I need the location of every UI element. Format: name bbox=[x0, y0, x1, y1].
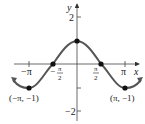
svg-text:π: π bbox=[58, 65, 62, 73]
svg-text:2: 2 bbox=[94, 74, 98, 82]
x-tick-pi-half: π 2 bbox=[93, 65, 99, 82]
point-label-left: (−π, −1) bbox=[9, 93, 39, 103]
x-tick-neg-pi-half: − π 2 bbox=[50, 65, 63, 82]
x-axis-label: x bbox=[133, 66, 139, 77]
cosine-graph: y x 2 −2 −π π − π 2 π 2 (−π, −1) (π, −1) bbox=[0, 0, 145, 124]
point-label-right: (π, −1) bbox=[110, 93, 135, 103]
svg-text:2: 2 bbox=[58, 74, 62, 82]
x-tick-pi: π bbox=[121, 66, 126, 77]
svg-text:−: − bbox=[50, 66, 55, 76]
y-tick-neg2: −2 bbox=[65, 106, 76, 117]
svg-text:π: π bbox=[94, 65, 98, 73]
x-tick-neg-pi: −π bbox=[21, 66, 32, 77]
y-tick-2: 2 bbox=[69, 12, 74, 23]
